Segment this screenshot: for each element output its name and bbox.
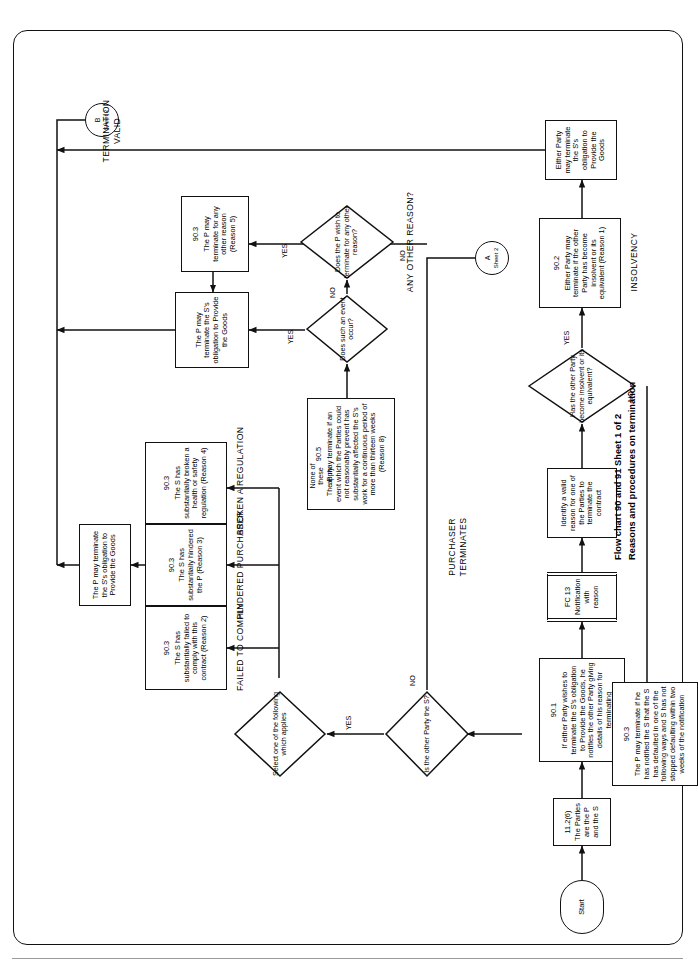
node-any-other-reason: 90.3 The P may terminate for any other r… [181,196,249,272]
node-any-other-reason-ref: 90.3 [192,200,201,268]
decision-select-one-label: Select one of the following which applie… [233,690,327,778]
footer-rule [12,958,683,959]
node-failed-to-comply: 90.3 The S has substantially failed to c… [145,606,227,690]
node-event-text: The P may terminate if an event which th… [325,403,386,504]
node-wishes-text: If either Party wishes to terminate the … [560,662,613,757]
node-notified-text: The P may terminate if he has notified t… [633,686,686,781]
node-parties: 11.2(6) The Parties are the P and the S [553,798,611,846]
decision-other-party-s: Is the other Party the S? [384,690,470,778]
node-identify-reason: Identify a valid reason for one of the P… [547,468,617,538]
decision-other-party-s-label: Is the other Party the S? [384,690,470,778]
node-insolvency-ref: 90.2 [553,222,562,304]
node-failed-text: The S has substantially failed to comply… [173,614,208,683]
connector-a-letter: A [484,256,491,261]
node-fc13-text: Notification with reason [573,578,599,615]
section-label-termination-valid: TERMINATION VALID [101,76,122,186]
node-parties-text: The Parties are the P and the S [573,803,599,841]
node-regulation-ref: 90.3 [163,446,172,520]
section-label-purchaser-terminates: PURCHASER TERMINATES [447,492,468,602]
node-hindered-ref: 90.3 [168,528,177,602]
section-label-any-other-reason: ANY OTHER REASON? [405,190,416,294]
flowchart-canvas: Start 11.2(6) The Parties are the P and … [27,58,667,958]
node-hindered-text: The S has substantially hindered the P (… [177,529,203,601]
branch-label-yes-other-party-s: YES [345,716,353,730]
node-start-text: Start [578,884,587,930]
node-wishes-ref: 90.1 [550,662,559,758]
node-either-party-terminate: Either Party may terminate the S's oblig… [545,120,617,180]
connector-a-sheet: Sheet 2 [493,242,500,274]
caption-line-1: Flow chart 90 and 91 Sheet 1 of 2 [613,414,623,560]
node-regulation-text: The S has substantially broken a health … [173,447,208,519]
decision-wish-other-reason: Does the P wish to terminate for any oth… [299,204,395,280]
node-insolvency: 90.2 Either Party may terminate if the o… [539,218,621,308]
branch-label-yes-wish-other: YES [281,244,289,258]
node-notified-default: 90.3 The P may terminate if he has notif… [612,682,698,786]
decision-event-occur-label: Does such an event occur? [305,294,389,364]
node-p-may-terminate-top: The P may terminate the S's obligation t… [79,524,131,606]
branch-label-no-other-party-s: NO [409,675,417,686]
node-failed-ref: 90.3 [163,610,172,686]
node-fc13-notification: FC 13 Notification with reason [547,572,617,622]
caption-line-2: Reasons and procedures on termination [627,382,637,560]
branch-label-none-of-these: None of these apply [309,456,334,496]
branch-label-yes-insolvent: YES [563,331,571,345]
node-broken-regulation: 90.3 The S has substantially broken a he… [145,442,227,524]
node-p-terminate-s-obligation-text: The P may terminate the S's obligation t… [195,296,230,364]
node-p-terminate-s-obligation: The P may terminate the S's obligation t… [175,292,249,368]
decision-wish-other-reason-label: Does the P wish to terminate for any oth… [299,204,395,280]
node-notified-ref: 90.3 [623,686,632,782]
node-either-party-text: Either Party may terminate the S's oblig… [555,124,607,176]
node-insolvency-text: Either Party may terminate if the other … [563,227,607,299]
node-identify-text: Identify a valid reason for one of the P… [560,472,604,534]
node-fc13-ref: FC 13 [564,579,573,615]
node-parties-ref: 11.2(6) [564,802,573,842]
section-label-broken-regulation: BROKEN A REGULATION [235,414,246,548]
node-p-may-terminate-top-text: The P may terminate the S's obligation t… [92,528,118,602]
node-start: Start [560,880,604,934]
branch-label-yes-event-occur: YES [287,330,295,344]
node-any-other-reason-text: The P may terminate for any other reason… [202,206,237,261]
page-border: Start 11.2(6) The Parties are the P and … [13,30,683,945]
branch-label-no-event-occur: NO [329,287,337,298]
node-hindered-purchaser: 90.3 The S has substantially hindered th… [145,524,227,606]
figure-caption: Flow chart 90 and 91 Sheet 1 of 2Reasons… [612,230,640,560]
decision-select-one: Select one of the following which applie… [233,690,327,778]
connector-a: A Sheet 2 [475,241,509,275]
decision-event-occur: Does such an event occur? [305,294,389,364]
